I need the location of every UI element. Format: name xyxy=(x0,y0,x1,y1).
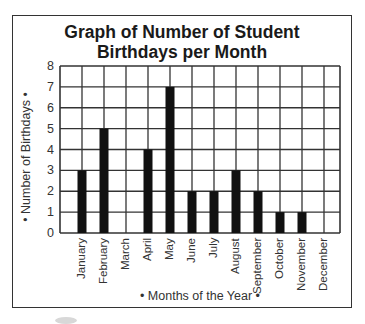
bar-october xyxy=(276,212,285,233)
bar-february xyxy=(100,129,109,233)
bar-january xyxy=(78,170,87,233)
bar-july xyxy=(210,191,219,233)
x-tick-label: November xyxy=(295,238,307,291)
plot-area xyxy=(0,0,365,324)
x-tick-label: October xyxy=(273,238,285,279)
bar-august xyxy=(232,170,241,233)
bar-september xyxy=(254,191,263,233)
bar-november xyxy=(298,212,307,233)
x-tick-label: December xyxy=(317,238,329,291)
x-tick-label: February xyxy=(97,238,109,284)
bar-april xyxy=(144,150,153,234)
bar-june xyxy=(188,191,197,233)
x-tick-label: April xyxy=(141,238,153,261)
x-tick-label: September xyxy=(251,238,263,294)
x-tick-label: August xyxy=(229,238,241,274)
bar-may xyxy=(166,87,175,233)
x-tick-label: January xyxy=(75,238,87,279)
x-tick-label: July xyxy=(207,238,219,258)
x-tick-label: March xyxy=(119,238,131,270)
x-tick-label: May xyxy=(163,238,175,260)
x-tick-label: June xyxy=(185,238,197,263)
scan-smudge xyxy=(55,317,77,324)
